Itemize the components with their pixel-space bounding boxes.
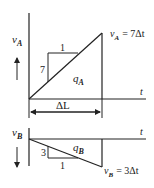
bottom-x-label: t bbox=[140, 126, 143, 137]
top-slope-rise: 7 bbox=[40, 64, 45, 75]
bottom-slope-run: 1 bbox=[60, 160, 65, 171]
bottom-area-label: qB bbox=[73, 141, 85, 156]
top-graph: vA t 7 1 qA vA= 7Δt bbox=[12, 13, 146, 99]
top-end-value: vA= 7Δt bbox=[110, 28, 145, 42]
delta-l-dimension: ΔL bbox=[29, 99, 102, 118]
top-x-label: t bbox=[140, 86, 143, 97]
top-area-label: qA bbox=[73, 72, 85, 87]
bottom-slope-rise: 3 bbox=[41, 147, 46, 158]
delta-l-label: ΔL bbox=[56, 99, 70, 111]
bottom-ramp-line bbox=[29, 139, 102, 167]
bottom-end-value: vB= 3Δt bbox=[104, 165, 139, 179]
top-slope-run: 1 bbox=[60, 42, 65, 53]
bottom-y-label: vB bbox=[12, 126, 23, 141]
top-y-label: vA bbox=[12, 33, 23, 48]
velocity-diagram: vA t 7 1 qA vA= 7Δt ΔL vB t 3 1 qB vB= 3… bbox=[0, 0, 154, 188]
bottom-graph: vB t 3 1 qB vB= 3Δt bbox=[12, 126, 146, 179]
